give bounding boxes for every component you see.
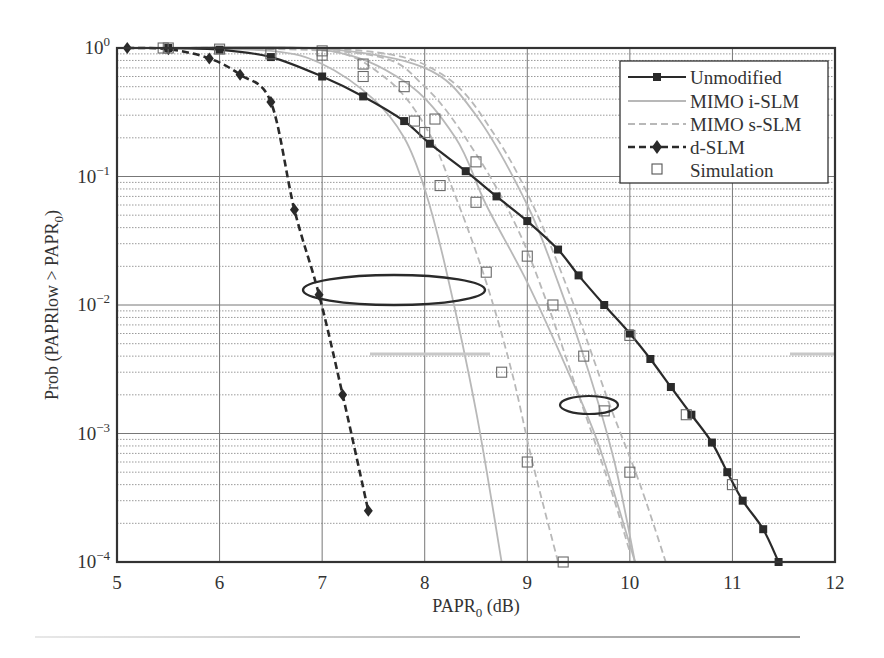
x-tick-label: 11 xyxy=(723,572,741,593)
square-marker-icon xyxy=(759,525,767,533)
square-marker-icon xyxy=(708,439,716,447)
x-tick-label: 9 xyxy=(523,572,533,593)
square-marker-icon xyxy=(493,192,501,200)
svg-text:Simulation: Simulation xyxy=(690,160,774,181)
x-axis-label: PAPR0 (dB) xyxy=(432,596,519,620)
x-tick-label: 12 xyxy=(826,572,845,593)
x-tick-label: 7 xyxy=(317,572,327,593)
annotations xyxy=(303,275,835,414)
y-axis-label: Prob (PAPRlow > PAPR0) xyxy=(42,210,66,400)
x-tick-label: 6 xyxy=(215,572,225,593)
square-marker-icon xyxy=(462,167,470,175)
y-tick-label: 100 xyxy=(85,34,111,58)
svg-text:MIMO s-SLM: MIMO s-SLM xyxy=(690,114,801,135)
open-square-marker-icon xyxy=(471,197,481,207)
chart: 56789101112 10010−110−210−310−4 PAPR0 (d… xyxy=(0,0,884,658)
square-marker-icon xyxy=(600,301,608,309)
y-tick-label: 10−3 xyxy=(77,420,110,444)
y-tick-label: 10−4 xyxy=(77,548,110,572)
y-tick-label: 10−2 xyxy=(77,291,110,315)
square-marker-icon xyxy=(523,217,531,225)
diamond-marker-icon xyxy=(290,204,299,216)
square-marker-icon xyxy=(667,383,675,391)
square-marker-icon xyxy=(739,497,747,505)
square-marker-icon xyxy=(554,246,562,254)
square-marker-icon xyxy=(400,117,408,125)
legend: Unmodified MIMO i-SLM MIMO s-SLM d-SLM S… xyxy=(620,61,828,183)
square-marker-icon xyxy=(426,140,434,148)
square-marker-icon xyxy=(653,73,661,81)
diamond-marker-icon xyxy=(205,52,214,64)
page-divider xyxy=(35,636,800,638)
diamond-marker-icon xyxy=(338,389,347,401)
svg-text:MIMO i-SLM: MIMO i-SLM xyxy=(690,91,799,112)
x-tick-label: 5 xyxy=(112,572,122,593)
diamond-marker-icon xyxy=(364,505,373,517)
square-marker-icon xyxy=(216,46,224,54)
square-marker-icon xyxy=(318,73,326,81)
series-mimo-s-slm xyxy=(168,48,630,552)
open-square-marker-icon xyxy=(409,116,419,126)
x-tick-label: 10 xyxy=(620,572,639,593)
ellipse-annotation-left xyxy=(303,275,485,305)
square-marker-icon xyxy=(359,92,367,100)
y-axis-ticks: 10010−110−210−310−4 xyxy=(77,34,110,572)
x-tick-label: 8 xyxy=(420,572,430,593)
square-marker-icon xyxy=(646,355,654,363)
open-square-marker-icon xyxy=(435,181,445,191)
svg-text:d-SLM: d-SLM xyxy=(690,137,745,158)
square-marker-icon xyxy=(723,468,731,476)
diamond-marker-icon xyxy=(236,69,245,81)
square-marker-icon xyxy=(575,271,583,279)
svg-text:Unmodified: Unmodified xyxy=(690,67,782,88)
square-marker-icon xyxy=(267,53,275,61)
x-axis-ticks: 56789101112 xyxy=(112,572,844,593)
y-tick-label: 10−1 xyxy=(77,163,110,187)
